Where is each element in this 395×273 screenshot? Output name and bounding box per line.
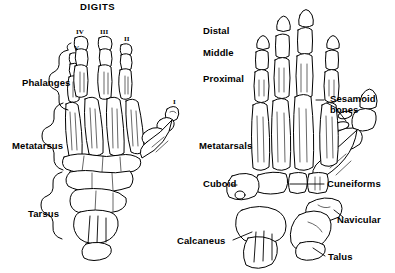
digit-numeral-iii: III [100, 27, 108, 38]
label-phalanges: Phalanges [22, 78, 70, 89]
digit-numeral-v: V [74, 43, 79, 54]
label-navicular: Navicular [337, 215, 381, 226]
diagram-labels: DIGITS V IV III II I Phalanges Metatarsu… [0, 0, 395, 273]
label-metatarsals: Metatarsals [199, 141, 252, 152]
label-talus: Talus [328, 252, 353, 263]
label-sesamoid: Sesamoid [330, 94, 376, 105]
label-cuneiforms: Cuneiforms [327, 179, 381, 190]
label-sesamoid-bones: bones [330, 105, 358, 116]
label-cuboid: Cuboid [203, 179, 236, 190]
digit-numeral-iv: IV [76, 27, 84, 38]
digits-title: DIGITS [80, 2, 115, 13]
label-calcaneus: Calcaneus [177, 236, 225, 247]
label-tarsus: Tarsus [28, 209, 59, 220]
label-distal: Distal [203, 26, 229, 37]
foot-anatomy-diagram: DIGITS V IV III II I Phalanges Metatarsu… [0, 0, 395, 273]
digit-numeral-ii: II [124, 34, 129, 45]
label-metatarsus: Metatarsus [12, 141, 63, 152]
digit-numeral-i: I [173, 97, 176, 108]
label-proximal: Proximal [203, 74, 244, 85]
label-middle: Middle [203, 48, 234, 59]
